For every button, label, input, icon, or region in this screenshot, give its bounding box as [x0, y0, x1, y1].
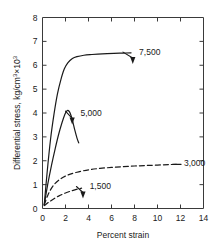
y-axis-title-mid: ×10	[12, 59, 22, 74]
y-axis-title-main: Differential stress, kg/cm	[12, 77, 22, 170]
annotation-arrows	[66, 52, 182, 198]
y-tick-label: 8	[33, 13, 38, 23]
x-tick-label: 6	[109, 213, 114, 223]
x-axis-title: Percent strain	[97, 230, 150, 240]
x-axis-ticks-bottom	[66, 205, 181, 209]
y-tick-label: 4	[33, 108, 38, 118]
y-tick-label: 1	[33, 180, 38, 190]
x-axis-tick-labels: 02468101214	[40, 213, 208, 223]
x-tick-label: 8	[132, 213, 137, 223]
series-labels: 7,5005,0003,0001,500	[80, 47, 205, 191]
y-axis-ticks-left	[43, 41, 47, 184]
series-label-7500: 7,500	[139, 47, 161, 57]
arrow-1500-head	[80, 191, 85, 198]
stress-strain-chart: 02468101214 012345678 7,5005,0003,0001,5…	[0, 0, 216, 245]
series-label-3000: 3,000	[184, 158, 206, 168]
arrow-7500-head	[130, 57, 135, 64]
data-curves	[44, 53, 179, 206]
x-axis-ticks-top	[66, 18, 181, 22]
x-tick-label: 14	[199, 213, 209, 223]
y-axis-title-superscript-2: 3	[12, 55, 18, 59]
y-tick-label: 5	[33, 84, 38, 94]
x-tick-label: 0	[40, 213, 45, 223]
x-tick-label: 4	[86, 213, 91, 223]
x-tick-label: 12	[176, 213, 186, 223]
svg-text:Differential stress, kg/cm3×10: Differential stress, kg/cm3×103	[12, 55, 22, 170]
y-tick-label: 0	[33, 204, 38, 214]
series-label-1500: 1,500	[90, 181, 112, 191]
y-axis-title: Differential stress, kg/cm3×103	[12, 55, 22, 170]
y-tick-label: 3	[33, 132, 38, 142]
chart-figure: 02468101214 012345678 7,5005,0003,0001,5…	[0, 0, 216, 245]
curve-1500	[44, 188, 81, 205]
series-label-5000: 5,000	[80, 108, 102, 118]
x-tick-label: 10	[153, 213, 163, 223]
x-tick-label: 2	[63, 213, 68, 223]
y-tick-label: 6	[33, 60, 38, 70]
y-tick-label: 7	[33, 36, 38, 46]
arrow-5000-head	[70, 117, 75, 124]
y-axis-tick-labels: 012345678	[33, 13, 38, 214]
y-tick-label: 2	[33, 156, 38, 166]
curve-3000	[44, 164, 179, 205]
